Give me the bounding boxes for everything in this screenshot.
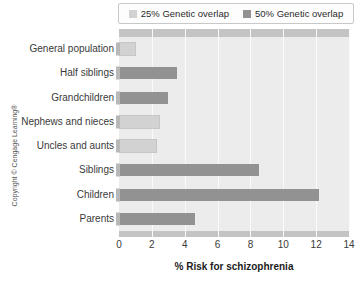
y-axis-tick bbox=[116, 91, 120, 104]
x-axis-tick-label: 4 bbox=[182, 240, 188, 250]
x-axis-tick-label: 0 bbox=[116, 240, 122, 250]
y-axis-tick bbox=[116, 115, 120, 128]
plot-area bbox=[119, 29, 349, 237]
y-axis-label: Grandchildren bbox=[8, 86, 114, 110]
bar bbox=[119, 42, 136, 56]
x-axis-tick-label: 12 bbox=[311, 240, 322, 250]
bar-row bbox=[119, 61, 349, 85]
plot-band-top bbox=[119, 29, 349, 37]
legend-label-25-percent: 25% Genetic overlap bbox=[141, 9, 229, 19]
y-axis-label: General population bbox=[8, 37, 114, 61]
bar-row bbox=[119, 134, 349, 158]
y-axis-label: Half siblings bbox=[8, 61, 114, 85]
bar bbox=[119, 92, 168, 104]
gridline bbox=[349, 29, 350, 237]
bar-row bbox=[119, 37, 349, 61]
bar bbox=[119, 115, 160, 129]
y-axis-tick bbox=[116, 140, 120, 153]
y-axis-labels: General population Half siblings Grandch… bbox=[8, 37, 114, 231]
legend-label-50-percent: 50% Genetic overlap bbox=[255, 9, 343, 19]
x-axis-tick-label: 14 bbox=[343, 240, 354, 250]
y-axis-tick bbox=[116, 212, 120, 225]
y-axis-label: Uncles and aunts bbox=[8, 134, 114, 158]
bar-row bbox=[119, 158, 349, 182]
x-axis-tick-label: 8 bbox=[248, 240, 254, 250]
legend-swatch-50-percent bbox=[243, 10, 251, 18]
x-axis-tick-label: 10 bbox=[278, 240, 289, 250]
schizophrenia-risk-bar-chart: 25% Genetic overlap 50% Genetic overlap … bbox=[0, 0, 360, 287]
y-axis-tick bbox=[116, 43, 120, 56]
chart-legend: 25% Genetic overlap 50% Genetic overlap bbox=[118, 3, 354, 24]
bar bbox=[119, 213, 195, 225]
bar bbox=[119, 189, 319, 201]
x-axis-ticks: 02468101214 bbox=[119, 240, 349, 253]
x-axis-tick-label: 6 bbox=[215, 240, 221, 250]
bar-row bbox=[119, 207, 349, 231]
y-axis-label: Children bbox=[8, 183, 114, 207]
x-axis-title: % Risk for schizophrenia bbox=[119, 262, 349, 272]
bar bbox=[119, 139, 157, 153]
y-axis-tick bbox=[116, 164, 120, 177]
legend-entry-25-percent: 25% Genetic overlap bbox=[129, 9, 229, 19]
y-axis-tick bbox=[116, 188, 120, 201]
copyright-notice: Copyright © Cengage Learning® bbox=[11, 97, 18, 215]
x-axis-tick-label: 2 bbox=[149, 240, 155, 250]
y-axis-label: Parents bbox=[8, 207, 114, 231]
bar-series bbox=[119, 37, 349, 231]
bar-row bbox=[119, 110, 349, 134]
y-axis-label: Nephews and nieces bbox=[8, 110, 114, 134]
bar-row bbox=[119, 86, 349, 110]
y-axis-tick bbox=[116, 67, 120, 80]
legend-swatch-25-percent bbox=[129, 10, 137, 18]
bar-row bbox=[119, 183, 349, 207]
bar bbox=[119, 164, 259, 176]
bar bbox=[119, 67, 177, 79]
y-axis-label: Siblings bbox=[8, 158, 114, 182]
legend-entry-50-percent: 50% Genetic overlap bbox=[243, 9, 343, 19]
plot-band-bottom bbox=[119, 231, 349, 237]
